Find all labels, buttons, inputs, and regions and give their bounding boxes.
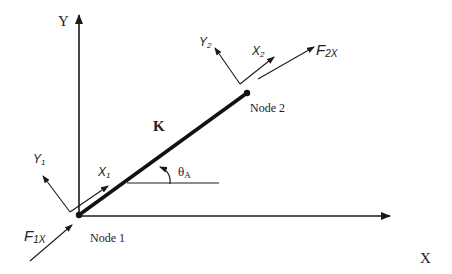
node2-point xyxy=(244,90,250,96)
global-x-label: X xyxy=(420,250,431,266)
node2-local-x-axis xyxy=(240,57,274,84)
node2-force-label: F2X xyxy=(316,41,338,59)
node2-local-y-axis xyxy=(215,48,240,84)
node1-local-y-label: Y1 xyxy=(33,152,45,167)
stiffness-label: K xyxy=(153,118,165,134)
node1-local-y-axis xyxy=(43,176,70,212)
node2-label: Node 2 xyxy=(250,101,285,115)
truss-element-diagram: Y X K Node 1 Node 2 θA X1 Y1 F1X X2 Y2 xyxy=(0,0,452,274)
element-bar xyxy=(79,93,247,215)
angle-arc-icon xyxy=(160,167,170,184)
node1-point xyxy=(76,212,82,218)
node2-local-x-label: X2 xyxy=(251,44,265,59)
node1-label: Node 1 xyxy=(90,231,125,245)
node1-local-x-label: X1 xyxy=(97,165,110,180)
node1-force-label: F1X xyxy=(24,227,46,245)
angle-label: θA xyxy=(178,164,191,180)
node2-local-y-label: Y2 xyxy=(199,35,212,50)
global-y-label: Y xyxy=(58,13,69,29)
